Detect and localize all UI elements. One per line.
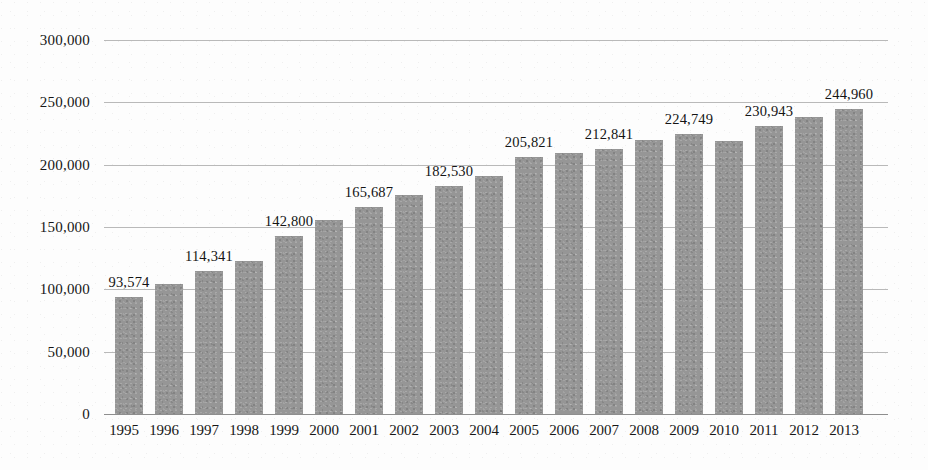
bar	[555, 153, 583, 414]
bar-series: 93,574114,341142,800165,687182,530205,82…	[104, 40, 888, 414]
x-axis-tick-labels: 1995199619971998199920002001200220032004…	[104, 422, 888, 452]
bar-group	[309, 40, 349, 414]
bar-group	[629, 40, 669, 414]
bar-value-label: 142,800	[265, 213, 314, 230]
x-axis-tick-label: 2000	[304, 422, 344, 439]
bar	[595, 149, 623, 414]
bar-value-label: 224,749	[665, 111, 714, 128]
bar-value-label: 212,841	[585, 126, 634, 143]
bar-group	[549, 40, 589, 414]
bar-group	[389, 40, 429, 414]
bar	[155, 284, 183, 414]
x-axis-tick-label: 1997	[184, 422, 224, 439]
x-axis-tick-label: 1999	[264, 422, 304, 439]
x-axis-tick-label: 2003	[424, 422, 464, 439]
bar-group	[469, 40, 509, 414]
x-axis-tick-label: 2011	[744, 422, 784, 439]
bar	[395, 195, 423, 414]
bar-group: 142,800	[269, 40, 309, 414]
bar	[715, 141, 743, 414]
bar-group: 93,574	[109, 40, 149, 414]
bar	[275, 236, 303, 414]
bar	[835, 109, 863, 414]
bar-value-label: 165,687	[345, 184, 394, 201]
bar-value-label: 230,943	[745, 103, 794, 120]
x-axis-tick-label: 1998	[224, 422, 264, 439]
bar	[355, 207, 383, 414]
bar	[635, 140, 663, 414]
bar	[235, 261, 263, 414]
bar-chart: 300,000250,000200,000150,000100,00050,00…	[0, 0, 928, 470]
x-axis-tick-label: 2012	[784, 422, 824, 439]
x-axis-tick-label: 2010	[704, 422, 744, 439]
bar-group: 205,821	[509, 40, 549, 414]
x-axis-tick-label: 2005	[504, 422, 544, 439]
x-axis-tick-label: 2008	[624, 422, 664, 439]
bar	[315, 220, 343, 414]
bar-group	[149, 40, 189, 414]
x-axis-tick-label: 2007	[584, 422, 624, 439]
bar-value-label: 114,341	[185, 248, 233, 265]
bar-value-label: 205,821	[505, 134, 554, 151]
bar	[195, 271, 223, 414]
axis-baseline	[104, 414, 888, 415]
bar	[675, 134, 703, 414]
bar	[515, 157, 543, 414]
plot-area: 93,574114,341142,800165,687182,530205,82…	[104, 40, 888, 414]
bar-value-label: 182,530	[425, 163, 474, 180]
x-axis-tick-label: 2013	[824, 422, 864, 439]
bar-value-label: 93,574	[108, 274, 149, 291]
y-axis-tick-label: 250,000	[0, 94, 90, 111]
x-axis-tick-label: 2004	[464, 422, 504, 439]
y-axis-tick-label: 300,000	[0, 32, 90, 49]
bar	[435, 186, 463, 414]
bar	[795, 117, 823, 414]
bar-group	[709, 40, 749, 414]
bar-group: 224,749	[669, 40, 709, 414]
bar-group: 182,530	[429, 40, 469, 414]
bar-group: 114,341	[189, 40, 229, 414]
bar-group	[229, 40, 269, 414]
y-axis-tick-label: 0	[0, 406, 90, 423]
x-axis-tick-label: 2006	[544, 422, 584, 439]
bar-group: 244,960	[829, 40, 869, 414]
bar-group	[789, 40, 829, 414]
bar-group: 212,841	[589, 40, 629, 414]
x-axis-tick-label: 2001	[344, 422, 384, 439]
bar	[475, 176, 503, 414]
x-axis-tick-label: 1995	[104, 422, 144, 439]
x-axis-tick-label: 2009	[664, 422, 704, 439]
bar-group: 165,687	[349, 40, 389, 414]
x-axis-tick-label: 2002	[384, 422, 424, 439]
y-axis-tick-label: 50,000	[0, 343, 90, 360]
bar-value-label: 244,960	[825, 86, 874, 103]
bar	[115, 297, 143, 414]
y-axis-tick-label: 150,000	[0, 219, 90, 236]
bar	[755, 126, 783, 414]
y-axis-tick-label: 100,000	[0, 281, 90, 298]
y-axis-tick-label: 200,000	[0, 156, 90, 173]
bar-group: 230,943	[749, 40, 789, 414]
x-axis-tick-label: 1996	[144, 422, 184, 439]
